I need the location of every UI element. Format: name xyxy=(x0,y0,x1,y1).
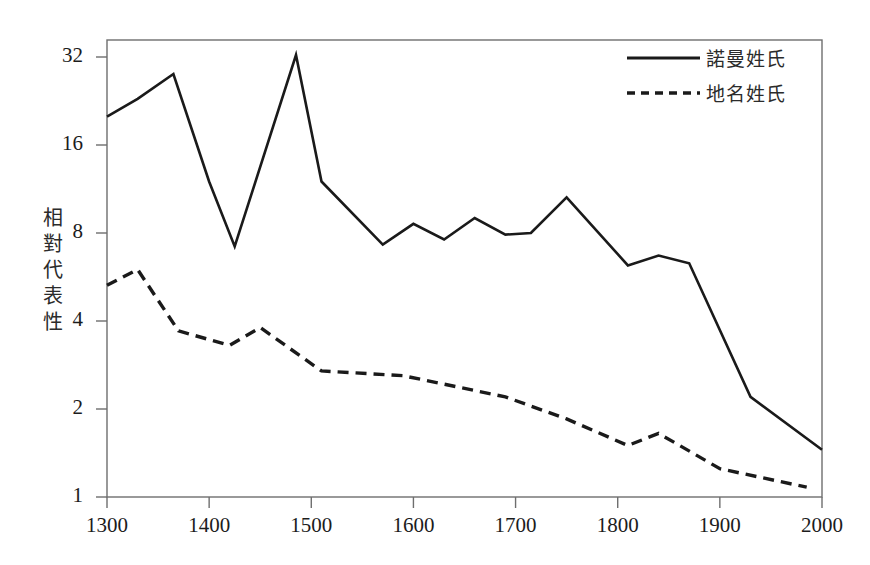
y-tick-label: 2 xyxy=(39,395,83,420)
x-tick-label: 1700 xyxy=(476,513,556,538)
y-tick-label: 1 xyxy=(39,483,83,508)
x-tick-label: 1300 xyxy=(67,513,147,538)
legend-sample-lines xyxy=(627,58,700,93)
y-tick-label: 16 xyxy=(39,131,83,156)
x-tick-label: 1600 xyxy=(373,513,453,538)
y-tick-label: 4 xyxy=(39,307,83,332)
legend-item-label-norman: 諾曼姓氏 xyxy=(706,44,786,71)
plot-frame xyxy=(107,40,822,497)
series-line-2 xyxy=(107,270,807,488)
chart-figure: 相對代表性 12481632 1300140015001600170018001… xyxy=(0,0,870,565)
y-axis-tick-marks xyxy=(96,57,107,497)
legend-item-label-toponymic: 地名姓氏 xyxy=(706,79,786,106)
x-axis-tick-marks xyxy=(107,497,822,508)
x-tick-label: 1900 xyxy=(680,513,760,538)
x-tick-label: 2000 xyxy=(782,513,862,538)
x-tick-label: 1400 xyxy=(169,513,249,538)
data-series-group xyxy=(107,55,822,487)
y-tick-label: 32 xyxy=(39,43,83,68)
x-tick-label: 1800 xyxy=(578,513,658,538)
y-tick-label: 8 xyxy=(39,219,83,244)
x-tick-label: 1500 xyxy=(271,513,351,538)
series-line-1 xyxy=(107,55,822,450)
